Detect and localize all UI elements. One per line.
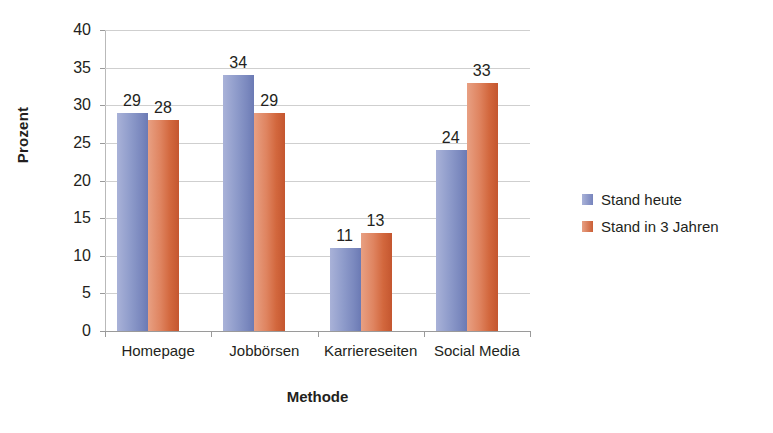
y-axis-tick-label: 5 bbox=[53, 285, 91, 301]
legend-item-label: Stand in 3 Jahren bbox=[601, 218, 719, 235]
x-axis-tick-label: Social Media bbox=[424, 342, 530, 359]
x-axis-tick-mark bbox=[424, 331, 425, 337]
x-axis-title: Methode bbox=[105, 388, 530, 405]
y-axis-tick-label: 40 bbox=[53, 22, 91, 38]
chart-legend: Stand heute Stand in 3 Jahren bbox=[582, 186, 719, 240]
legend-swatch-icon bbox=[582, 194, 593, 205]
legend-swatch-icon bbox=[582, 221, 593, 232]
x-axis-tick-label: Karriereseiten bbox=[318, 342, 424, 359]
bar-group: 1113 bbox=[318, 30, 424, 331]
y-axis-tick-label: 0 bbox=[53, 323, 91, 339]
bar[interactable] bbox=[467, 83, 498, 331]
bar-group: 2928 bbox=[105, 30, 211, 331]
legend-item-stand-in-3-jahren[interactable]: Stand in 3 Jahren bbox=[582, 213, 719, 240]
bar[interactable] bbox=[223, 75, 254, 331]
bar[interactable] bbox=[361, 233, 392, 331]
plot-area: 2928342911132433 HomepageJobbörsenKarrie… bbox=[105, 30, 530, 331]
bar[interactable] bbox=[117, 113, 148, 331]
x-axis-tick-mark bbox=[530, 331, 531, 337]
x-axis-tick-mark bbox=[211, 331, 212, 337]
x-axis-tick-mark bbox=[105, 331, 106, 337]
bar-value-label: 13 bbox=[353, 213, 399, 229]
y-axis-tick-label: 10 bbox=[53, 248, 91, 264]
y-axis-title: Prozent bbox=[8, 60, 38, 210]
y-axis-tick-label: 30 bbox=[53, 97, 91, 113]
bar-value-label: 34 bbox=[215, 55, 261, 71]
y-axis-tick-label: 15 bbox=[53, 210, 91, 226]
bar-value-label: 28 bbox=[140, 100, 186, 116]
bar-chart: Prozent 4035302520151050 292834291113243… bbox=[0, 0, 773, 433]
bar-value-label: 29 bbox=[246, 93, 292, 109]
x-axis-tick-label: Homepage bbox=[105, 342, 211, 359]
legend-item-stand-heute[interactable]: Stand heute bbox=[582, 186, 719, 213]
legend-item-label: Stand heute bbox=[601, 191, 682, 208]
bars-layer: 2928342911132433 bbox=[105, 30, 530, 331]
x-axis-tick-mark bbox=[318, 331, 319, 337]
x-axis-tick-label: Jobbörsen bbox=[211, 342, 317, 359]
bar-group: 3429 bbox=[211, 30, 317, 331]
bar-value-label: 33 bbox=[459, 63, 505, 79]
bar[interactable] bbox=[148, 120, 179, 331]
y-axis-tick-label: 20 bbox=[53, 173, 91, 189]
bar[interactable] bbox=[436, 150, 467, 331]
bar[interactable] bbox=[254, 113, 285, 331]
y-axis-tick-label: 35 bbox=[53, 60, 91, 76]
y-axis-tick-label: 25 bbox=[53, 135, 91, 151]
bar-group: 2433 bbox=[424, 30, 530, 331]
bar[interactable] bbox=[330, 248, 361, 331]
